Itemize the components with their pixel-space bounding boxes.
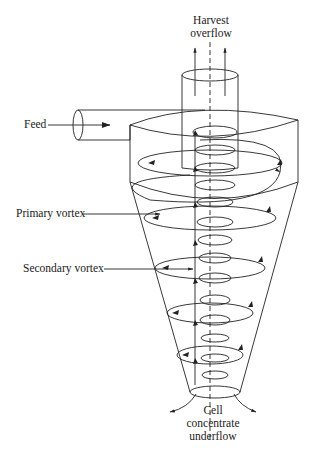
primary-vortex-label: Primary vortex [16, 207, 85, 220]
primary-vortex-path [132, 139, 282, 364]
cell-concentrate-underflow-label: Cell concentrate underflow [180, 404, 246, 443]
hydrocyclone-diagram [0, 0, 314, 456]
harvest-overflow-label: Harvest overflow [186, 14, 236, 40]
feed-label: Feed [24, 118, 46, 131]
secondary-vortex-label: Secondary vortex [23, 262, 104, 275]
